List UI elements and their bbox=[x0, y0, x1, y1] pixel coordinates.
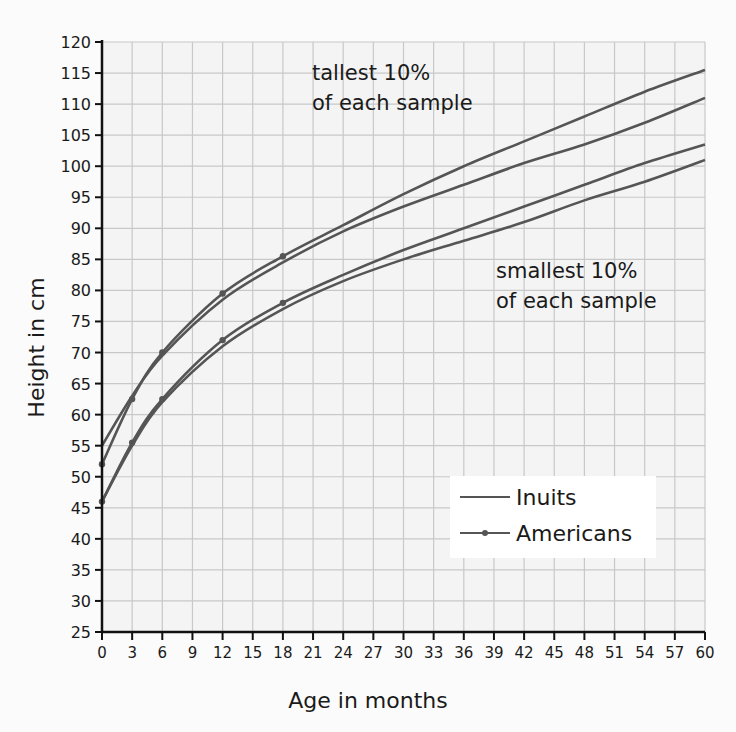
legend-label-americans: Americans bbox=[516, 521, 632, 546]
y-tick-label: 95 bbox=[71, 188, 91, 207]
y-axis-label: Height in cm bbox=[24, 248, 49, 448]
data-point-marker bbox=[219, 290, 225, 296]
x-tick-label: 30 bbox=[394, 644, 413, 662]
y-tick-label: 40 bbox=[71, 530, 91, 549]
y-tick-label: 100 bbox=[60, 157, 91, 176]
x-tick-label: 21 bbox=[304, 644, 323, 662]
x-tick-label: 48 bbox=[575, 644, 594, 662]
y-tick-label: 65 bbox=[71, 375, 91, 394]
x-tick-label: 0 bbox=[97, 644, 107, 662]
y-tick-label: 25 bbox=[71, 623, 91, 642]
x-tick-label: 51 bbox=[605, 644, 624, 662]
legend: Inuits Americans bbox=[450, 476, 656, 558]
annotation-tallest-line2: of each sample bbox=[312, 88, 473, 118]
data-point-marker bbox=[219, 337, 225, 343]
annotation-smallest-line1: smallest 10% bbox=[496, 256, 657, 286]
x-tick-label: 45 bbox=[545, 644, 564, 662]
x-tick-label: 36 bbox=[454, 644, 473, 662]
y-tick-label: 115 bbox=[60, 64, 91, 83]
x-tick-label: 15 bbox=[243, 644, 262, 662]
x-axis-label: Age in months bbox=[0, 688, 736, 713]
legend-item-inuits: Inuits bbox=[460, 482, 577, 512]
y-tick-label: 55 bbox=[71, 437, 91, 456]
x-tick-label: 60 bbox=[695, 644, 714, 662]
y-tick-label: 110 bbox=[60, 95, 91, 114]
legend-label-inuits: Inuits bbox=[516, 485, 577, 510]
x-tick-label: 12 bbox=[213, 644, 232, 662]
y-tick-label: 120 bbox=[60, 33, 91, 52]
x-tick-label: 57 bbox=[665, 644, 684, 662]
y-tick-label: 50 bbox=[71, 468, 91, 487]
annotation-smallest: smallest 10% of each sample bbox=[496, 256, 657, 316]
y-tick-label: 30 bbox=[71, 592, 91, 611]
x-tick-label: 3 bbox=[127, 644, 137, 662]
y-tick-label: 80 bbox=[71, 281, 91, 300]
y-tick-label: 35 bbox=[71, 561, 91, 580]
annotation-tallest: tallest 10% of each sample bbox=[312, 58, 473, 118]
line-swatch-icon bbox=[460, 496, 510, 498]
dotted-line-swatch-icon bbox=[460, 532, 510, 534]
y-tick-label: 105 bbox=[60, 126, 91, 145]
y-tick-label: 60 bbox=[71, 406, 91, 425]
x-tick-label: 33 bbox=[424, 644, 443, 662]
y-tick-label: 85 bbox=[71, 250, 91, 269]
annotation-smallest-line2: of each sample bbox=[496, 286, 657, 316]
x-tick-label: 18 bbox=[273, 644, 292, 662]
data-point-marker bbox=[280, 300, 286, 306]
y-tick-label: 45 bbox=[71, 499, 91, 518]
legend-item-americans: Americans bbox=[460, 518, 632, 548]
data-point-marker bbox=[280, 253, 286, 259]
annotation-tallest-line1: tallest 10% bbox=[312, 58, 473, 88]
x-tick-label: 54 bbox=[635, 644, 654, 662]
x-tick-label: 6 bbox=[158, 644, 168, 662]
x-tick-label: 39 bbox=[484, 644, 503, 662]
x-tick-label: 42 bbox=[515, 644, 534, 662]
x-tick-label: 9 bbox=[188, 644, 198, 662]
y-tick-label: 70 bbox=[71, 344, 91, 363]
x-tick-label: 24 bbox=[334, 644, 353, 662]
y-tick-label: 90 bbox=[71, 219, 91, 238]
y-tick-label: 75 bbox=[71, 312, 91, 331]
x-tick-label: 27 bbox=[364, 644, 383, 662]
